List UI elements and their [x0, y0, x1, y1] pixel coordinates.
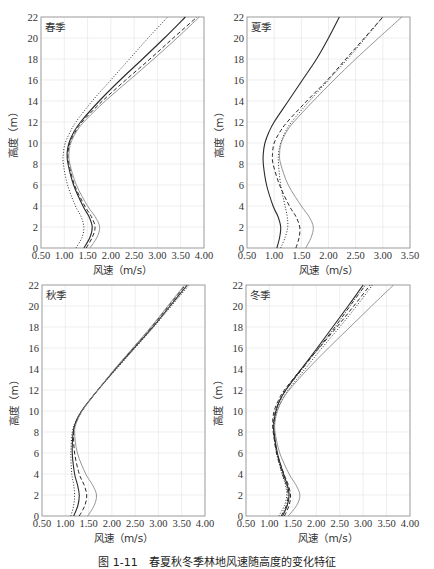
x-tick-label: 4.00	[195, 250, 213, 261]
y-tick-label: 22	[234, 12, 245, 23]
panel-winter: 0.501.001.502.002.503.003.504.0002468101…	[212, 280, 419, 545]
x-tick-label: 3.00	[374, 250, 392, 261]
x-axis-label: 风速（m/s）	[94, 532, 153, 544]
x-axis-label: 风速（m/s）	[298, 532, 357, 544]
series-group	[273, 285, 394, 516]
series-group	[263, 17, 402, 248]
y-tick-labels: 0246810121416182022	[29, 280, 40, 522]
plot-frame	[246, 285, 410, 516]
y-tick-label: 14	[28, 96, 39, 107]
y-tick-label: 14	[234, 96, 245, 107]
figure-caption: 图 1-11 春夏秋冬季林地风速随高度的变化特征	[0, 553, 434, 569]
x-tick-label: 1.00	[56, 518, 74, 529]
panel-autumn: 0.501.001.502.002.503.003.504.0002468101…	[8, 280, 214, 545]
season-label: 冬季	[250, 289, 271, 301]
season-label: 秋季	[46, 289, 67, 301]
y-tick-label: 16	[233, 343, 244, 354]
season-label: 春季	[45, 21, 66, 33]
x-tick-label: 1.00	[265, 250, 283, 261]
y-tick-labels: 0246810121416182022	[233, 280, 244, 522]
y-tick-label: 22	[233, 280, 244, 291]
x-tick-labels: 0.501.001.502.002.503.003.504.00	[32, 250, 213, 261]
series-dotted	[63, 17, 168, 248]
series-dashed	[272, 17, 383, 248]
y-tick-label: 8	[33, 159, 38, 170]
y-tick-label: 12	[28, 117, 39, 128]
y-tick-label: 6	[238, 448, 243, 459]
y-tick-label: 16	[28, 75, 39, 86]
y-tick-label: 10	[233, 406, 244, 417]
x-tick-label: 3.00	[149, 518, 167, 529]
x-tick-label: 1.50	[79, 518, 97, 529]
x-tick-labels: 0.501.001.502.002.503.003.50	[238, 250, 419, 261]
series-solid-light	[75, 285, 185, 516]
y-tick-label: 14	[29, 364, 40, 375]
grid	[246, 285, 410, 516]
y-tick-label: 4	[34, 469, 40, 480]
y-tick-label: 10	[29, 406, 40, 417]
grid	[247, 17, 410, 248]
y-tick-label: 10	[28, 138, 39, 149]
y-tick-label: 6	[34, 448, 39, 459]
y-tick-label: 2	[239, 222, 244, 233]
x-tick-label: 2.00	[307, 518, 325, 529]
y-tick-label: 4	[33, 201, 39, 212]
y-tick-label: 18	[233, 322, 244, 333]
grid	[41, 17, 204, 248]
y-tick-label: 12	[234, 117, 245, 128]
y-tick-labels: 0246810121416182022	[28, 12, 39, 254]
y-tick-label: 8	[34, 427, 39, 438]
y-tick-label: 6	[33, 180, 38, 191]
y-tick-label: 2	[33, 222, 38, 233]
y-tick-label: 22	[29, 280, 40, 291]
y-axis-label: 高度（m）	[213, 107, 225, 157]
y-tick-label: 0	[238, 511, 243, 522]
x-tick-label: 3.50	[173, 518, 191, 529]
y-tick-label: 22	[28, 12, 39, 23]
y-tick-label: 4	[238, 469, 244, 480]
series-group	[63, 17, 199, 248]
y-tick-label: 0	[33, 243, 38, 254]
y-tick-label: 0	[34, 511, 39, 522]
x-tick-label: 4.00	[401, 518, 419, 529]
panel-spring: 0.501.001.502.002.503.003.504.0002468101…	[7, 12, 213, 277]
x-tick-labels: 0.501.001.502.002.503.003.504.00	[33, 518, 214, 529]
y-tick-label: 20	[233, 301, 244, 312]
y-tick-label: 6	[239, 180, 244, 191]
x-tick-label: 2.00	[319, 250, 337, 261]
x-tick-label: 4.00	[196, 518, 214, 529]
y-tick-label: 18	[29, 322, 40, 333]
y-tick-label: 20	[29, 301, 40, 312]
y-axis-label: 高度（m）	[8, 375, 20, 425]
x-tick-label: 2.50	[125, 250, 143, 261]
x-tick-label: 3.50	[401, 250, 419, 261]
x-axis-label: 风速（m/s）	[299, 264, 358, 276]
y-tick-labels: 0246810121416182022	[234, 12, 245, 254]
x-tick-labels: 0.501.001.502.002.503.003.504.00	[237, 518, 419, 529]
y-tick-label: 8	[238, 427, 243, 438]
x-tick-label: 3.50	[172, 250, 190, 261]
x-tick-label: 2.50	[126, 518, 144, 529]
series-solid-dark	[67, 17, 185, 248]
y-tick-label: 12	[233, 385, 244, 396]
y-axis-label: 高度（m）	[212, 375, 224, 425]
plot-frame	[41, 17, 204, 248]
series-solid-light	[280, 17, 402, 248]
y-tick-label: 10	[234, 138, 245, 149]
y-tick-label: 12	[29, 385, 40, 396]
season-label: 夏季	[251, 21, 272, 33]
y-tick-label: 16	[234, 75, 245, 86]
x-tick-label: 1.00	[55, 250, 73, 261]
grid	[42, 285, 205, 516]
y-tick-label: 20	[234, 33, 245, 44]
panel-summer: 0.501.001.502.002.503.003.50024681012141…	[213, 12, 419, 277]
x-axis-label: 风速（m/s）	[93, 264, 152, 276]
y-tick-label: 4	[239, 201, 245, 212]
x-tick-label: 1.50	[284, 518, 302, 529]
x-tick-label: 3.50	[377, 518, 395, 529]
x-tick-label: 2.00	[103, 518, 121, 529]
y-tick-label: 14	[233, 364, 244, 375]
x-tick-label: 1.50	[292, 250, 310, 261]
y-tick-label: 2	[34, 490, 39, 501]
x-tick-label: 3.00	[354, 518, 372, 529]
